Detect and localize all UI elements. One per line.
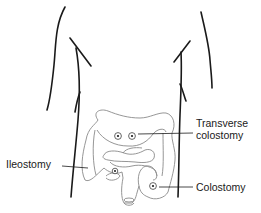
colostomy-label: Colostomy [196, 181, 246, 193]
left-rib-line [70, 38, 91, 66]
leader-lines [62, 133, 193, 187]
descending-colon-inner [162, 133, 163, 176]
right-flank-line [178, 52, 181, 197]
transverse-leader [138, 133, 193, 134]
torso-left-side [47, 7, 65, 110]
stoma-diagram: Transverse colostomy Ileostomy Colostomy [0, 0, 261, 213]
large-intestine [82, 110, 175, 203]
small-bowel-loop-2 [123, 148, 142, 153]
torso-outline [47, 7, 212, 197]
ileostomy-label: Ileostomy [6, 158, 51, 170]
rectum-end [124, 198, 134, 202]
left-flank-line [71, 48, 79, 197]
intestines [82, 110, 175, 205]
ascending-colon-inner [93, 130, 96, 175]
transverse-label-line2: colostomy [196, 129, 248, 141]
ileostomy-leader [62, 166, 88, 168]
transverse-colostomy-label: Transverse colostomy [196, 117, 248, 141]
small-bowel-loop-1 [103, 149, 154, 162]
transverse-label-line1: Transverse [196, 117, 248, 129]
torso-right-side [201, 12, 212, 88]
small-bowel-loop-4 [106, 173, 120, 180]
